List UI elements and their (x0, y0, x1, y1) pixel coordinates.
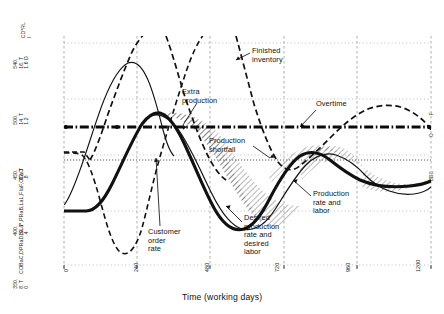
x-axis-ticks (64, 265, 431, 269)
series-finished-inventory-3 (236, 36, 302, 170)
chart-figure: 540. 16. T 1.6 D 500. 14. T 1.2 450. 12.… (0, 0, 444, 314)
plot-area (0, 0, 444, 314)
series-production-rate-and-labor (64, 113, 431, 230)
series-finished-inventory (90, 30, 148, 160)
annotation-leaders (154, 53, 316, 226)
